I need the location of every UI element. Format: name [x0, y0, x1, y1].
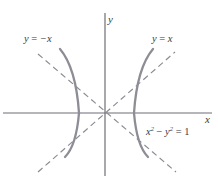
equation-value: 1 [184, 126, 189, 137]
asymptote-negative-rhs: −x [40, 33, 52, 44]
asymptote-negative-equals: = [29, 33, 40, 44]
x-axis-label: x [205, 114, 210, 125]
asymptote-positive-rhs: x [168, 33, 173, 44]
hyperbola-equation-label: x2 − y2 = 1 [146, 127, 189, 138]
asymptote-negative-label: y = −x [24, 34, 52, 45]
asymptote-positive-label: y = x [152, 34, 173, 45]
y-axis-label: y [108, 14, 113, 25]
equation-equals: = [173, 126, 184, 137]
figure-background [0, 0, 218, 178]
asymptote-positive-equals: = [157, 33, 168, 44]
equation-minus: − [154, 126, 165, 137]
hyperbola-figure [0, 0, 218, 178]
